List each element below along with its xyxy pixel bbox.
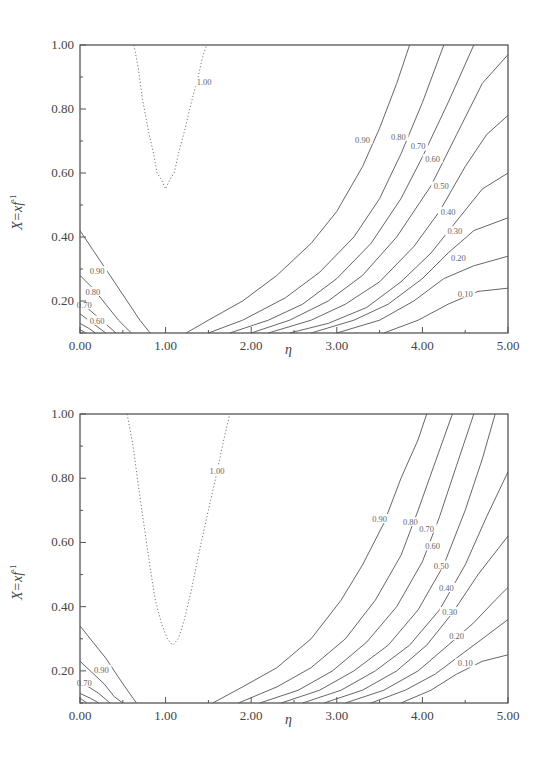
plot-frame bbox=[80, 414, 508, 703]
y-axis-title-main: X=x bbox=[10, 206, 25, 230]
y-tick-label: 1.00 bbox=[51, 37, 74, 52]
contour-label: 0.50 bbox=[434, 181, 449, 191]
contour-line bbox=[127, 414, 230, 645]
contour-label: 0.60 bbox=[425, 154, 440, 164]
contour-label: 0.90 bbox=[355, 135, 370, 145]
contour-label: 0.90 bbox=[90, 266, 105, 276]
contour-label: 0.80 bbox=[85, 287, 100, 297]
y-tick-label: 0.20 bbox=[51, 293, 74, 308]
contour-label: 0.30 bbox=[447, 226, 462, 236]
contour-line bbox=[186, 45, 410, 333]
x-tick-label: 3.00 bbox=[325, 708, 348, 723]
bottom-x-axis-title: η bbox=[285, 712, 292, 728]
y-axis-title-f: f bbox=[10, 202, 25, 206]
contour-label: 0.20 bbox=[449, 631, 464, 641]
contour-label: 0.90 bbox=[372, 514, 387, 524]
y-tick-label: 0.80 bbox=[51, 470, 74, 485]
x-tick-label: 0.00 bbox=[69, 338, 92, 353]
contour-line bbox=[80, 693, 99, 703]
y-tick-label: 0.60 bbox=[51, 534, 74, 549]
x-tick-label: 2.00 bbox=[240, 708, 263, 723]
contour-line bbox=[303, 472, 508, 703]
contour-label: 0.40 bbox=[439, 583, 454, 593]
contour-line bbox=[268, 115, 508, 333]
contour-label: 0.40 bbox=[441, 207, 456, 217]
contour-line bbox=[134, 45, 207, 189]
contour-label: 0.10 bbox=[458, 289, 473, 299]
bottom-contour-plot: 1.000.900.700.900.800.700.600.500.400.30… bbox=[51, 406, 519, 723]
contour-label: 0.70 bbox=[419, 524, 434, 534]
contour-label: 0.70 bbox=[411, 141, 426, 151]
y-axis-title-main: X=x bbox=[10, 576, 25, 600]
contour-line bbox=[401, 655, 508, 703]
contour-line bbox=[337, 256, 508, 333]
x-tick-label: 5.00 bbox=[497, 708, 520, 723]
contour-line bbox=[260, 414, 474, 703]
contour-label: 0.70 bbox=[77, 678, 92, 688]
x-tick-label: 1.00 bbox=[154, 708, 177, 723]
contour-label: 1.00 bbox=[197, 77, 212, 87]
contour-label: 0.60 bbox=[90, 316, 105, 326]
contour-label: 0.50 bbox=[434, 561, 449, 571]
contour-label: 0.10 bbox=[458, 658, 473, 668]
contour-label: 0.90 bbox=[94, 665, 109, 675]
x-tick-label: 0.00 bbox=[69, 708, 92, 723]
x-tick-label: 3.00 bbox=[325, 338, 348, 353]
contour-label: 0.30 bbox=[442, 607, 457, 617]
contour-label: 0.20 bbox=[451, 253, 466, 263]
bottom-y-axis-title: X=xf-1 bbox=[8, 520, 26, 600]
y-axis-title-exponent: -1 bbox=[8, 194, 18, 202]
contour-line bbox=[311, 218, 508, 333]
contour-label: 0.80 bbox=[391, 132, 406, 142]
x-tick-label: 2.00 bbox=[240, 338, 263, 353]
x-tick-label: 4.00 bbox=[411, 338, 434, 353]
contour-line bbox=[213, 414, 427, 703]
contour-line bbox=[80, 698, 87, 703]
contour-figure: 1.000.900.800.700.600.900.800.700.600.50… bbox=[0, 0, 543, 761]
x-tick-label: 1.00 bbox=[154, 338, 177, 353]
contour-label: 0.80 bbox=[403, 517, 418, 527]
top-y-axis-title: X=xf-1 bbox=[8, 150, 26, 230]
contour-line bbox=[324, 536, 508, 703]
y-tick-label: 0.80 bbox=[51, 101, 74, 116]
contour-line bbox=[371, 620, 508, 704]
top-x-axis-title: η bbox=[285, 342, 292, 358]
contour-line bbox=[384, 288, 508, 333]
y-tick-label: 0.20 bbox=[51, 663, 74, 678]
y-tick-label: 0.40 bbox=[51, 229, 74, 244]
contour-label: 0.60 bbox=[425, 541, 440, 551]
x-tick-label: 4.00 bbox=[411, 708, 434, 723]
y-tick-label: 0.40 bbox=[51, 599, 74, 614]
contour-line bbox=[208, 45, 443, 333]
y-tick-label: 0.60 bbox=[51, 165, 74, 180]
x-tick-label: 5.00 bbox=[497, 338, 520, 353]
y-axis-title-exponent: -1 bbox=[8, 564, 18, 572]
y-axis-title-f: f bbox=[10, 572, 25, 576]
y-tick-label: 1.00 bbox=[51, 406, 74, 421]
contour-label: 1.00 bbox=[210, 466, 225, 476]
top-contour-plot: 1.000.900.800.700.600.900.800.700.600.50… bbox=[51, 37, 519, 353]
